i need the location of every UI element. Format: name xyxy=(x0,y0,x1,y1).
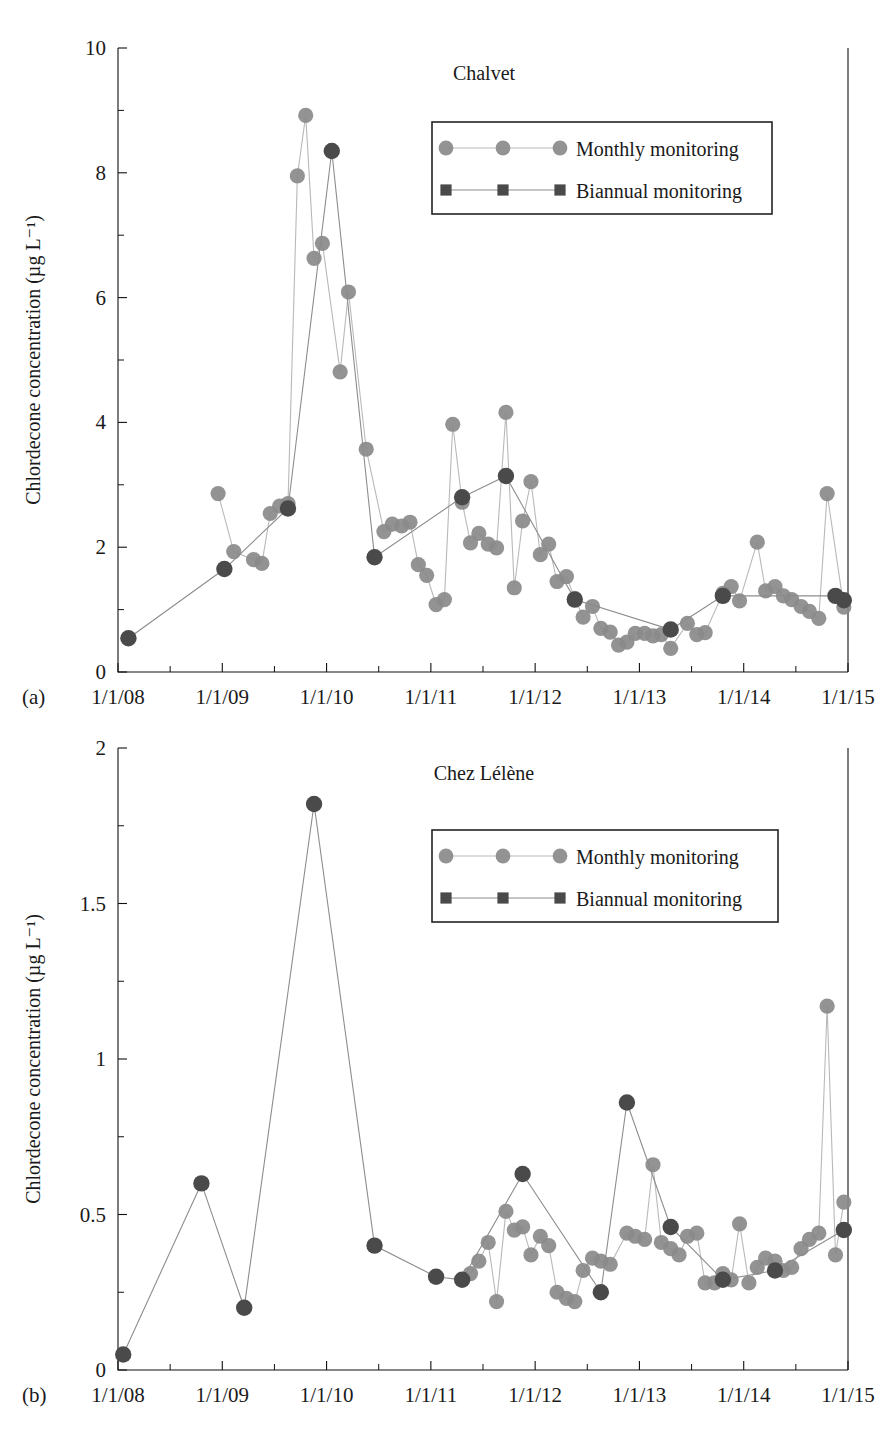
data-point-biannual xyxy=(115,1346,131,1362)
data-point-monthly xyxy=(811,611,826,626)
chart-svg-chez-lelene: 00.511.521/1/081/1/091/1/101/1/111/1/121… xyxy=(0,722,882,1452)
x-tick-label: 1/1/13 xyxy=(613,685,667,709)
legend-marker-square xyxy=(497,892,508,903)
data-point-monthly xyxy=(498,1204,513,1219)
data-point-monthly xyxy=(828,1247,843,1262)
data-point-monthly xyxy=(645,1157,660,1172)
data-point-monthly xyxy=(341,284,356,299)
data-point-biannual xyxy=(193,1175,209,1191)
legend-marker-square xyxy=(497,184,508,195)
y-tick-label: 8 xyxy=(96,161,107,185)
data-point-monthly xyxy=(359,442,374,457)
data-point-monthly xyxy=(402,515,417,530)
data-point-biannual xyxy=(120,630,136,646)
legend-label: Biannual monitoring xyxy=(576,180,742,203)
data-point-monthly xyxy=(567,1294,582,1309)
legend-marker-square xyxy=(554,184,565,195)
panel-label: (b) xyxy=(22,1383,47,1407)
data-point-biannual xyxy=(836,1222,852,1238)
data-point-monthly xyxy=(523,1247,538,1262)
data-point-monthly xyxy=(333,364,348,379)
data-point-monthly xyxy=(419,568,434,583)
data-point-monthly xyxy=(559,569,574,584)
legend-marker-square xyxy=(440,184,451,195)
data-point-monthly xyxy=(290,168,305,183)
legend-label: Monthly monitoring xyxy=(576,138,739,161)
data-point-biannual xyxy=(324,143,340,159)
y-tick-label: 10 xyxy=(85,36,106,60)
series-markers-biannual xyxy=(120,143,852,647)
legend-label: Biannual monitoring xyxy=(576,888,742,911)
data-point-monthly xyxy=(315,236,330,251)
y-tick-label: 2 xyxy=(96,535,107,559)
legend-marker-circle xyxy=(439,141,454,156)
data-point-monthly xyxy=(489,1294,504,1309)
data-point-monthly xyxy=(689,1226,704,1241)
data-point-monthly xyxy=(836,1194,851,1209)
data-point-monthly xyxy=(750,535,765,550)
data-point-monthly xyxy=(541,1238,556,1253)
y-tick-label: 0 xyxy=(96,1358,107,1382)
data-point-monthly xyxy=(471,1254,486,1269)
data-point-monthly xyxy=(698,625,713,640)
data-point-biannual xyxy=(514,1166,530,1182)
data-point-biannual xyxy=(715,588,731,604)
data-point-monthly xyxy=(603,624,618,639)
data-point-biannual xyxy=(454,1272,470,1288)
data-point-monthly xyxy=(211,486,226,501)
x-tick-label: 1/1/15 xyxy=(821,685,875,709)
y-tick-label: 0.5 xyxy=(80,1203,106,1227)
x-tick-label: 1/1/15 xyxy=(821,1383,875,1407)
data-point-biannual xyxy=(663,621,679,637)
data-point-monthly xyxy=(741,1275,756,1290)
data-point-monthly xyxy=(226,544,241,559)
y-tick-label: 4 xyxy=(96,410,107,434)
panel-label: (a) xyxy=(22,685,45,709)
y-axis-title: Chlordecone concentration (µg L⁻¹) xyxy=(22,215,45,505)
data-point-monthly xyxy=(498,405,513,420)
data-point-monthly xyxy=(811,1226,826,1241)
data-point-biannual xyxy=(619,1094,635,1110)
data-point-monthly xyxy=(603,1257,618,1272)
data-point-biannual xyxy=(454,489,470,505)
x-tick-label: 1/1/09 xyxy=(195,1383,249,1407)
chart-panel-chalvet: 02468101/1/081/1/091/1/101/1/111/1/121/1… xyxy=(0,0,882,722)
data-point-monthly xyxy=(732,593,747,608)
data-point-monthly xyxy=(637,1232,652,1247)
y-axis-title: Chlordecone concentration (µg L⁻¹) xyxy=(22,914,45,1204)
series-markers-monthly xyxy=(463,999,852,1310)
data-point-monthly xyxy=(523,474,538,489)
y-tick-label: 2 xyxy=(96,736,107,760)
x-tick-label: 1/1/11 xyxy=(404,685,457,709)
x-tick-label: 1/1/14 xyxy=(717,685,771,709)
x-tick-label: 1/1/12 xyxy=(508,1383,562,1407)
data-point-biannual xyxy=(366,1237,382,1253)
chart-title: Chalvet xyxy=(453,62,516,84)
y-tick-label: 1.5 xyxy=(80,892,106,916)
legend-marker-circle xyxy=(553,849,568,864)
y-tick-label: 6 xyxy=(96,286,107,310)
data-point-biannual xyxy=(715,1272,731,1288)
chart-legend: Monthly monitoringBiannual monitoring xyxy=(432,122,772,214)
data-point-biannual xyxy=(236,1300,252,1316)
x-tick-label: 1/1/09 xyxy=(195,685,249,709)
data-point-biannual xyxy=(306,796,322,812)
data-point-monthly xyxy=(445,417,460,432)
data-point-monthly xyxy=(732,1216,747,1231)
data-point-biannual xyxy=(593,1284,609,1300)
legend-marker-square xyxy=(554,892,565,903)
x-tick-label: 1/1/14 xyxy=(717,1383,771,1407)
x-tick-label: 1/1/08 xyxy=(91,685,145,709)
data-point-biannual xyxy=(366,549,382,565)
data-point-biannual xyxy=(567,591,583,607)
chart-panel-chez-lelene: 00.511.521/1/081/1/091/1/101/1/111/1/121… xyxy=(0,722,882,1452)
x-tick-label: 1/1/11 xyxy=(404,1383,457,1407)
data-point-biannual xyxy=(216,561,232,577)
data-point-biannual xyxy=(663,1219,679,1235)
data-point-monthly xyxy=(489,540,504,555)
chart-legend: Monthly monitoringBiannual monitoring xyxy=(432,830,778,922)
figure-container: 02468101/1/081/1/091/1/101/1/111/1/121/1… xyxy=(0,0,882,1452)
x-tick-label: 1/1/12 xyxy=(508,685,562,709)
x-tick-label: 1/1/13 xyxy=(613,1383,667,1407)
data-point-biannual xyxy=(280,500,296,516)
